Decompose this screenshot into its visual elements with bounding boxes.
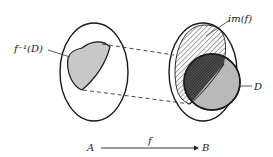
domain-label: A [86, 142, 94, 153]
diagram-canvas: f⁻¹(D) im(f) D A f B [0, 0, 273, 157]
preimage-label: f⁻¹(D) [13, 43, 43, 54]
mapping-line-top [102, 44, 174, 55]
preimage-region [68, 42, 110, 90]
codomain-label: B [201, 142, 209, 153]
image-label: im(f) [228, 13, 252, 24]
subset-D-label: D [253, 81, 262, 92]
preimage-leader [48, 50, 70, 57]
function-label: f [147, 135, 154, 146]
